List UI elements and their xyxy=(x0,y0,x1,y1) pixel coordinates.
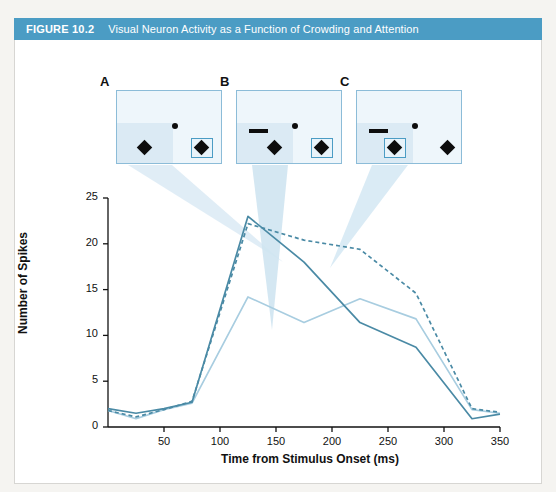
x-tick-label: 250 xyxy=(372,435,404,447)
x-tick-label: 100 xyxy=(204,435,236,447)
y-tick-label: 0 xyxy=(74,419,98,431)
x-tick-marks xyxy=(164,427,500,432)
x-tick-label: 150 xyxy=(260,435,292,447)
x-tick-label: 300 xyxy=(428,435,460,447)
y-tick-label: 5 xyxy=(74,373,98,385)
y-axis-label: Number of Spikes xyxy=(16,208,30,358)
y-tick-label: 20 xyxy=(74,236,98,248)
data-series-group xyxy=(108,216,500,418)
series-line-c xyxy=(108,297,500,419)
y-tick-label: 25 xyxy=(74,190,98,202)
y-tick-label: 15 xyxy=(74,282,98,294)
series-line-a xyxy=(108,216,500,418)
y-tick-label: 10 xyxy=(74,327,98,339)
x-axis-label: Time from Stimulus Onset (ms) xyxy=(150,452,470,466)
x-tick-label: 350 xyxy=(484,435,516,447)
x-tick-label: 200 xyxy=(316,435,348,447)
x-tick-label: 50 xyxy=(148,435,180,447)
y-tick-marks xyxy=(103,198,108,427)
series-line-b xyxy=(108,224,500,417)
